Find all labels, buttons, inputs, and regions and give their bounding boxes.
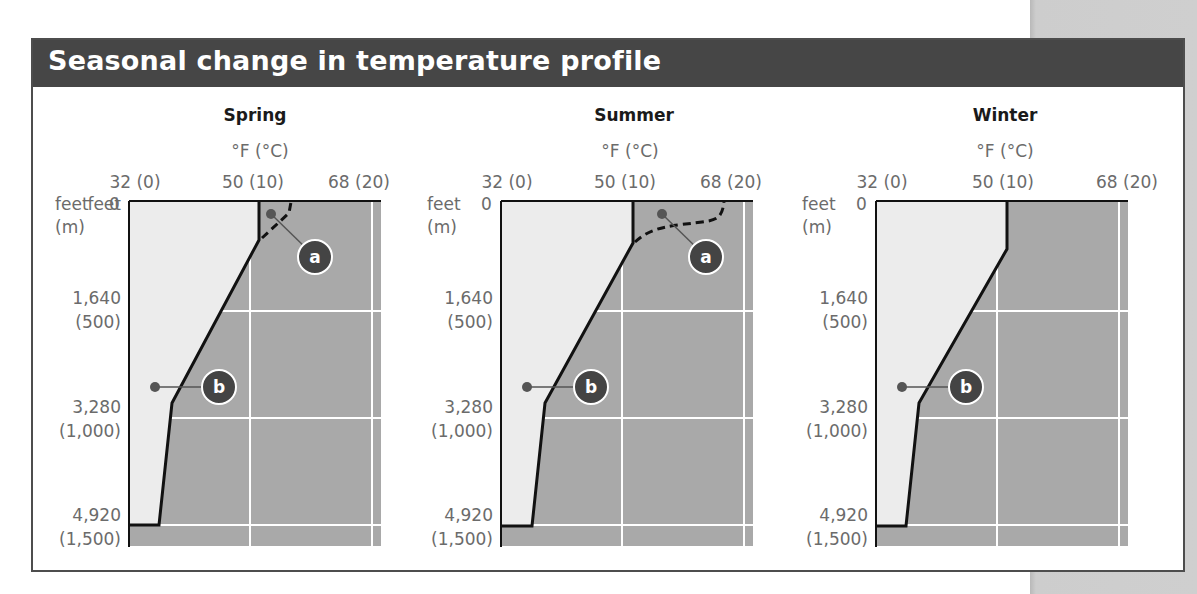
y-tick-1500: (1,500) bbox=[59, 529, 121, 549]
callout-b-label: b bbox=[960, 377, 972, 397]
x-tick-32: 32 (0) bbox=[109, 172, 160, 192]
y-tick-zero: 0 bbox=[481, 194, 492, 214]
x-unit-label: °F (°C) bbox=[976, 141, 1033, 161]
x-tick-50: 50 (10) bbox=[972, 172, 1034, 192]
x-unit-label: °F (°C) bbox=[601, 141, 658, 161]
x-tick-50: 50 (10) bbox=[594, 172, 656, 192]
y-tick-3280: 3,280 bbox=[444, 397, 493, 417]
callout-b-dot bbox=[522, 382, 532, 392]
y-tick-1640: 1,640 bbox=[444, 288, 493, 308]
x-tick-68: 68 (20) bbox=[700, 172, 762, 192]
y-tick-1000: (1,000) bbox=[431, 421, 493, 441]
y-tick-zero: 0 bbox=[856, 194, 867, 214]
x-tick-68: 68 (20) bbox=[328, 172, 390, 192]
y-tick-1500: (1,500) bbox=[806, 529, 868, 549]
y-tick-1640: 1,640 bbox=[72, 288, 121, 308]
callout-b-dot bbox=[897, 382, 907, 392]
y-unit-feet: feet bbox=[802, 194, 836, 214]
callout-a-dot bbox=[657, 209, 667, 219]
x-tick-32: 32 (0) bbox=[481, 172, 532, 192]
y-unit-m: (m) bbox=[55, 217, 85, 237]
x-tick-32: 32 (0) bbox=[856, 172, 907, 192]
y-unit-feet: feet bbox=[55, 194, 89, 214]
callout-a-dot bbox=[266, 209, 276, 219]
y-tick-zero: 0 bbox=[109, 194, 120, 214]
y-tick-4920: 4,920 bbox=[72, 505, 121, 525]
y-unit-m: (m) bbox=[802, 217, 832, 237]
y-tick-1640: 1,640 bbox=[819, 288, 868, 308]
panel-title: Summer bbox=[594, 105, 674, 125]
y-tick-500: (500) bbox=[822, 312, 868, 332]
panel-summer: Summer °F (°C) 32 (0) 50 (10) 68 (20) a … bbox=[427, 105, 762, 549]
callout-b-dot bbox=[150, 382, 160, 392]
y-unit-m: (m) bbox=[427, 217, 457, 237]
panel-title: Winter bbox=[973, 105, 1038, 125]
y-tick-500: (500) bbox=[447, 312, 493, 332]
y-unit-feet: feet bbox=[427, 194, 461, 214]
callout-a-label: a bbox=[309, 247, 320, 267]
y-tick-1000: (1,000) bbox=[806, 421, 868, 441]
y-tick-3280: 3,280 bbox=[72, 397, 121, 417]
y-tick-1000: (1,000) bbox=[59, 421, 121, 441]
callout-b-label: b bbox=[213, 377, 225, 397]
x-tick-50: 50 (10) bbox=[222, 172, 284, 192]
y-tick-4920: 4,920 bbox=[819, 505, 868, 525]
panel-winter: Winter °F (°C) 32 (0) 50 (10) 68 (20) b … bbox=[802, 105, 1158, 549]
callout-a-label: a bbox=[700, 247, 711, 267]
panel-title: Spring bbox=[224, 105, 287, 125]
y-tick-3280: 3,280 bbox=[819, 397, 868, 417]
callout-b-label: b bbox=[585, 377, 597, 397]
y-tick-500: (500) bbox=[75, 312, 121, 332]
x-unit-label: °F (°C) bbox=[231, 141, 288, 161]
charts-layer: Spring °F (°C) 32 (0) 50 (10) 68 (20) a bbox=[0, 0, 1197, 594]
x-tick-68: 68 (20) bbox=[1096, 172, 1158, 192]
y-tick-1500: (1,500) bbox=[431, 529, 493, 549]
panel-spring: Spring °F (°C) 32 (0) 50 (10) 68 (20) a bbox=[55, 105, 390, 549]
y-tick-4920: 4,920 bbox=[444, 505, 493, 525]
